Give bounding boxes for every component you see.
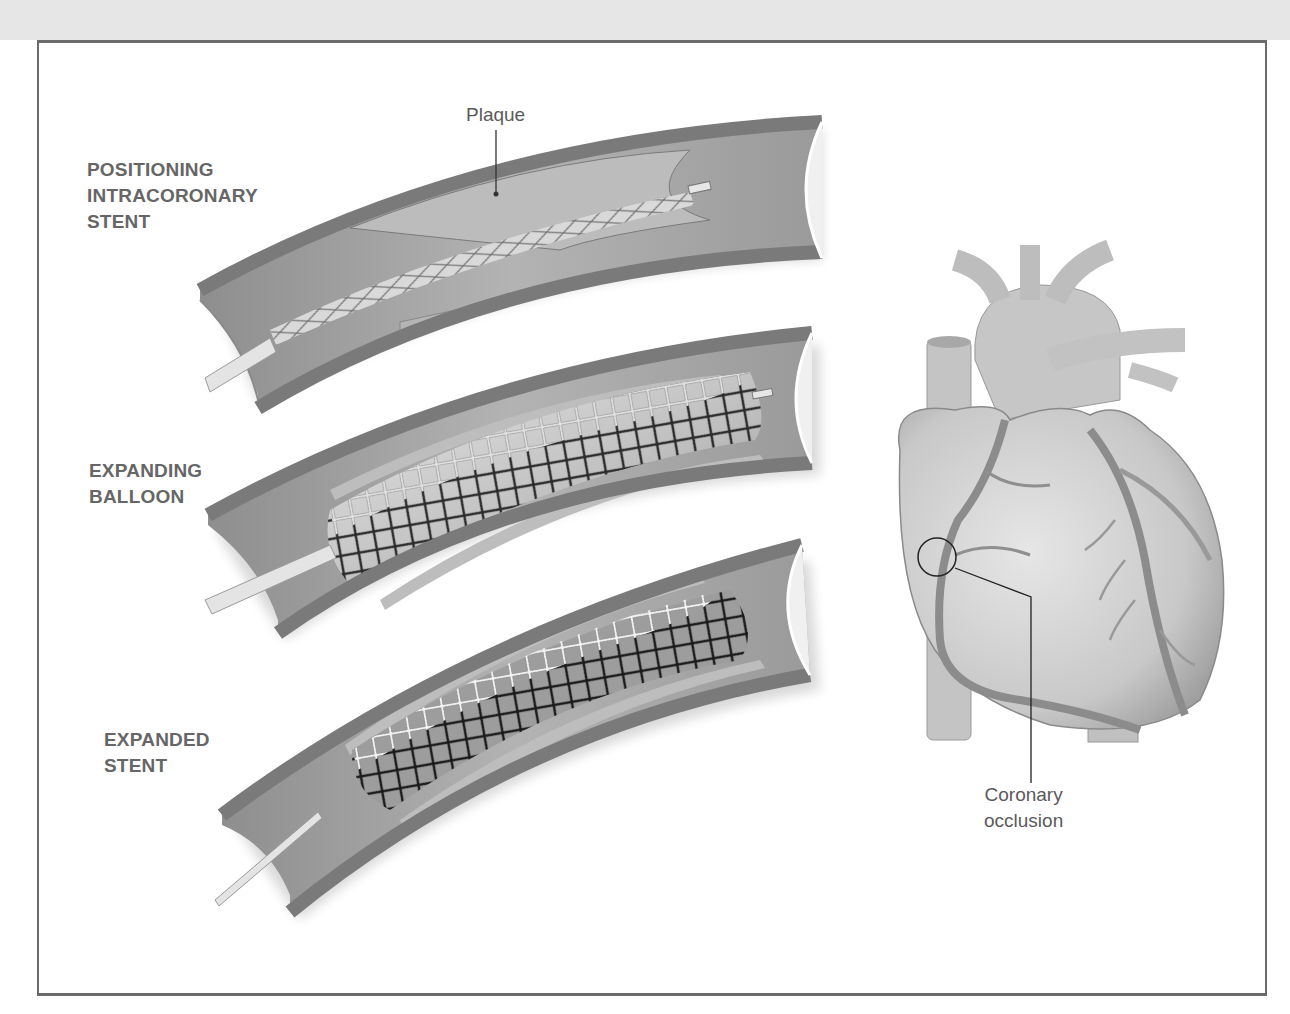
callout-line: Coronary — [984, 782, 1063, 808]
stage-label-line: INTRACORONARY — [87, 183, 258, 209]
stage-label-line: POSITIONING — [87, 157, 258, 183]
stage-label-expanded: EXPANDED STENT — [104, 727, 210, 779]
stage-label-expanding: EXPANDING BALLOON — [89, 458, 202, 510]
stage-label-line: BALLOON — [89, 484, 202, 510]
stage-label-line: EXPANDING — [89, 458, 202, 484]
coronary-occlusion-callout: Coronary occlusion — [984, 782, 1063, 834]
stage-label-line: STENT — [87, 209, 258, 235]
stage-label-line: EXPANDED — [104, 727, 210, 753]
heart-illustration — [899, 245, 1224, 742]
callout-line: occlusion — [984, 808, 1063, 834]
stage-label-positioning: POSITIONING INTRACORONARY STENT — [87, 157, 258, 235]
plaque-leader-dot — [494, 192, 499, 197]
plaque-callout: Plaque — [466, 102, 525, 128]
stage-label-line: STENT — [104, 753, 210, 779]
